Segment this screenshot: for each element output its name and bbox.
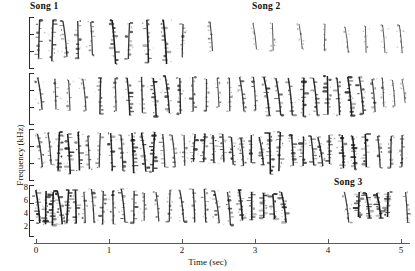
song-label-2: Song 2 bbox=[252, 1, 280, 11]
song-syllable bbox=[268, 22, 278, 52]
song-syllable bbox=[139, 192, 150, 222]
song-syllable bbox=[176, 189, 188, 223]
song-syllable bbox=[396, 134, 408, 168]
y-tick-2: 2 bbox=[14, 222, 28, 231]
song-syllable bbox=[297, 77, 310, 118]
y-tick-4: 4 bbox=[14, 209, 28, 218]
song-syllable bbox=[236, 76, 248, 113]
song-syllable bbox=[158, 19, 172, 65]
song-syllable bbox=[136, 76, 148, 114]
song-syllable bbox=[148, 77, 161, 118]
song-syllable bbox=[355, 76, 368, 115]
song-syllable bbox=[187, 76, 199, 113]
x-tick-1: 1 bbox=[107, 245, 112, 255]
song-syllable bbox=[46, 19, 59, 62]
song-syllable bbox=[110, 77, 121, 112]
song-syllable bbox=[33, 19, 45, 60]
song-syllable bbox=[123, 22, 135, 60]
spectrogram-figure: Song 1 Song 2 Song 3 Frequency (kHz) 8 6… bbox=[0, 0, 415, 271]
song-syllable bbox=[389, 79, 398, 107]
song-syllable bbox=[141, 19, 154, 64]
x-tick-mark-2 bbox=[182, 239, 183, 243]
x-tick-5: 5 bbox=[399, 245, 404, 255]
song-syllable bbox=[381, 191, 395, 218]
song-syllable bbox=[323, 134, 336, 165]
song-syllable bbox=[399, 78, 408, 104]
x-axis-label: Time (sec) bbox=[0, 257, 415, 267]
song-syllable bbox=[396, 24, 406, 54]
song-syllable bbox=[83, 135, 94, 170]
x-tick-mark-3 bbox=[255, 239, 256, 243]
song-syllable bbox=[206, 21, 217, 52]
x-tick-0: 0 bbox=[34, 245, 39, 255]
song-syllable bbox=[373, 135, 385, 169]
song-syllable bbox=[174, 77, 186, 115]
song-syllable bbox=[177, 23, 188, 58]
song-label-1: Song 1 bbox=[30, 1, 58, 11]
x-axis-line bbox=[34, 243, 410, 244]
song-syllable bbox=[199, 188, 211, 223]
x-tick-mark-1 bbox=[109, 239, 110, 243]
song-syllable bbox=[379, 24, 389, 54]
song-syllable bbox=[201, 78, 212, 112]
song-syllable bbox=[272, 77, 285, 116]
song-syllable bbox=[86, 21, 97, 56]
x-tick-mark-0 bbox=[36, 239, 37, 243]
song-syllable bbox=[359, 133, 373, 168]
song-syllable bbox=[342, 26, 351, 53]
song-syllable bbox=[122, 77, 135, 116]
song-syllable bbox=[273, 131, 286, 172]
song-syllable bbox=[224, 77, 235, 112]
y-tick-6: 6 bbox=[14, 196, 28, 205]
song-syllable bbox=[79, 78, 90, 112]
song-syllable bbox=[211, 190, 223, 224]
song-syllable bbox=[284, 77, 297, 116]
x-tick-3: 3 bbox=[253, 245, 258, 255]
x-tick-mark-4 bbox=[328, 239, 329, 243]
song-syllable bbox=[296, 23, 305, 50]
song-syllable bbox=[320, 23, 329, 51]
song-syllable bbox=[249, 76, 260, 111]
song-syllable bbox=[213, 77, 223, 108]
song-syllable bbox=[152, 191, 163, 222]
song-syllable bbox=[107, 19, 121, 65]
song-syllable bbox=[72, 20, 84, 59]
song-syllable bbox=[250, 22, 259, 50]
song-syllable bbox=[188, 188, 200, 223]
song-syllable bbox=[94, 77, 107, 115]
song-syllable bbox=[385, 135, 397, 169]
y-tick-8: 8 bbox=[14, 183, 28, 192]
x-tick-2: 2 bbox=[180, 245, 185, 255]
song-syllable bbox=[277, 191, 290, 223]
song-syllable bbox=[64, 79, 75, 111]
song-syllable bbox=[50, 78, 61, 110]
song-syllable bbox=[361, 25, 370, 53]
song-syllable bbox=[59, 20, 71, 58]
song-syllable bbox=[161, 75, 174, 114]
song-syllable bbox=[34, 77, 46, 111]
x-tick-mark-5 bbox=[401, 239, 402, 243]
x-tick-4: 4 bbox=[326, 245, 331, 255]
song-label-3: Song 3 bbox=[334, 177, 362, 187]
song-syllable bbox=[368, 78, 379, 113]
song-syllable bbox=[378, 77, 388, 108]
song-syllable bbox=[164, 189, 175, 223]
song-syllable bbox=[401, 191, 412, 223]
